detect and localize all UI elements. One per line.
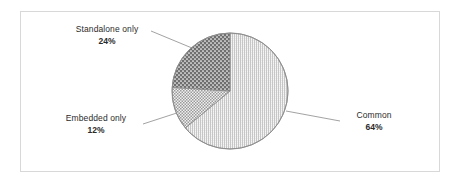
pie-slice-standalone-only[interactable] [172, 33, 230, 91]
slice-label-standalone-only: Standalone only 24% [61, 24, 153, 46]
slice-label-embedded-only-percent: 12% [50, 125, 142, 136]
slice-label-embedded-only-name: Embedded only [50, 113, 142, 124]
slice-label-common: Common 64% [340, 110, 408, 132]
slice-label-standalone-only-name: Standalone only [61, 24, 153, 35]
slice-label-common-percent: 64% [340, 122, 408, 133]
leader-line-common [286, 111, 340, 121]
leader-line-standalone [151, 31, 192, 48]
slice-label-embedded-only: Embedded only 12% [50, 113, 142, 135]
slice-label-common-name: Common [340, 110, 408, 121]
pie-chart-figure: Standalone only 24% Embedded only 12% Co… [0, 0, 460, 183]
slice-label-standalone-only-percent: 24% [61, 36, 153, 47]
